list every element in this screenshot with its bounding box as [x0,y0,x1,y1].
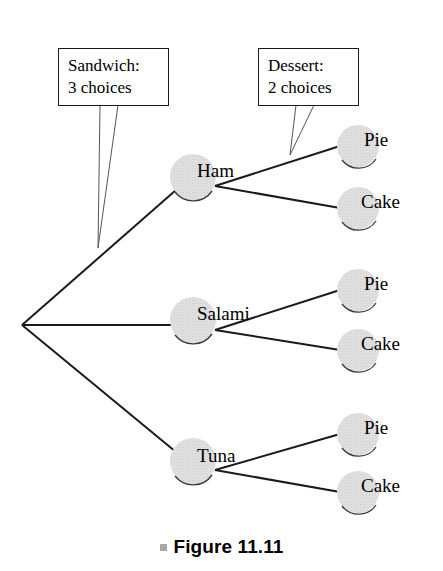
sandwich-callout-line2: 3 choices [68,77,160,99]
square-bullet-icon [160,544,167,551]
dessert-callout: Dessert: 2 choices [258,48,359,106]
dessert-nodes [337,125,379,514]
node-label-salami-pie: Pie [364,274,388,293]
edge-ham-cake [215,186,340,208]
figure-caption-text: Figure 11.11 [174,536,284,557]
figure-container: Ham Salami Tuna Pie Cake Pie Cake Pie Ca… [0,0,443,571]
node-label-tuna-cake: Cake [361,476,400,495]
node-label-ham-cake: Cake [361,192,400,211]
node-label-tuna: Tuna [197,446,235,465]
node-label-ham: Ham [197,161,234,180]
edge-salami-cake [215,330,340,350]
figure-caption: Figure 11.11 [0,536,443,558]
node-label-salami-cake: Cake [361,334,400,353]
node-label-ham-pie: Pie [364,130,388,149]
edge-tuna-cake [215,470,340,492]
dessert-callout-line2: 2 choices [268,77,350,99]
node-label-salami: Salami [197,304,250,323]
node-label-tuna-pie: Pie [364,418,388,437]
edge-root-tuna [22,325,176,452]
sandwich-callout-line1: Sandwich: [68,55,160,77]
sandwich-callout-tail [98,105,118,248]
dessert-callout-tail [290,105,314,155]
sandwich-callout: Sandwich: 3 choices [58,48,169,106]
dessert-callout-line1: Dessert: [268,55,350,77]
